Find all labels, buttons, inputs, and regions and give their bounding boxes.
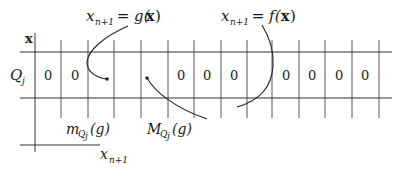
svg-text:x: x [146, 8, 155, 24]
cell-zero: 0 [230, 68, 238, 83]
svg-text:(g): (g) [172, 121, 192, 137]
f-curve [237, 25, 273, 107]
g-min-dot [105, 77, 109, 81]
cell-values: 0 0 0 0 0 0 0 0 0 [44, 68, 369, 83]
cell-zero: 0 [44, 68, 52, 83]
svg-text:x: x [86, 7, 95, 25]
svg-text:): ) [290, 7, 296, 25]
diagram-canvas: x Q j 0 0 0 0 0 0 0 0 0 x n+1 = g( x ) x… [0, 0, 401, 170]
min-label: m Q j (g) [66, 121, 110, 141]
cell-zero: 0 [71, 68, 79, 83]
horizontal-axis-label: x n+1 [100, 146, 128, 165]
svg-text:): ) [155, 7, 161, 25]
cell-zero: 0 [282, 68, 290, 83]
svg-text:n+1: n+1 [109, 155, 128, 165]
svg-text:x: x [281, 8, 290, 24]
svg-text:= g(: = g( [112, 7, 151, 25]
svg-text:(g): (g) [90, 121, 110, 137]
g-label: x n+1 = g( x ) [86, 7, 161, 27]
svg-text:= f(: = f( [247, 7, 282, 25]
cell-zero: 0 [361, 68, 369, 83]
svg-text:x: x [100, 146, 108, 162]
cell-zero: 0 [308, 68, 316, 83]
cell-zero: 0 [177, 68, 185, 83]
svg-text:x: x [221, 7, 230, 25]
cell-zero: 0 [203, 68, 211, 83]
max-label: M Q j (g) [146, 121, 192, 141]
row-label-qj: Q j [10, 66, 25, 86]
vertical-axis-label: x [25, 31, 33, 46]
f-label: x n+1 = f( x ) [221, 7, 296, 27]
cell-zero: 0 [335, 68, 343, 83]
svg-text:Q: Q [10, 66, 22, 84]
